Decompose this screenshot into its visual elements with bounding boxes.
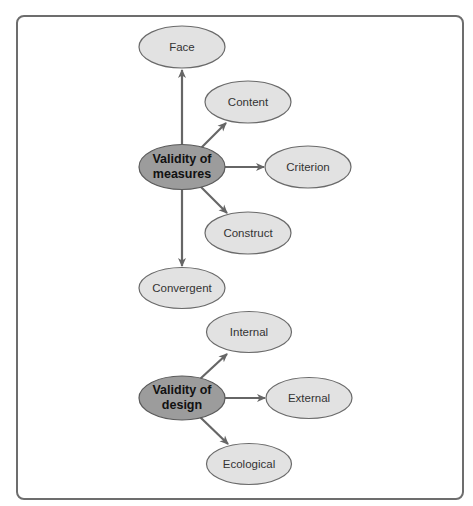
node-content-label: Content: [228, 96, 269, 108]
measures-label-line1: Validity of: [152, 152, 212, 166]
node-face[interactable]: Face: [139, 26, 225, 68]
node-validity-of-design[interactable]: Validity of design: [139, 376, 225, 420]
node-construct[interactable]: Construct: [205, 212, 291, 254]
measures-label-line2: measures: [153, 167, 211, 181]
validity-diagram: Face Content Criterion Construct Converg…: [0, 0, 473, 506]
node-construct-label: Construct: [223, 227, 273, 239]
arrow-to-ecological: [200, 417, 228, 444]
node-internal[interactable]: Internal: [207, 312, 292, 353]
node-ecological[interactable]: Ecological: [207, 444, 292, 485]
node-face-label: Face: [169, 41, 195, 53]
node-convergent-label: Convergent: [152, 282, 212, 294]
design-label-line1: Validity of: [152, 383, 212, 397]
node-external[interactable]: External: [266, 378, 352, 419]
node-ecological-label: Ecological: [223, 458, 275, 470]
arrow-to-content: [200, 123, 226, 149]
node-validity-of-measures[interactable]: Validity of measures: [139, 145, 225, 190]
arrow-to-construct: [200, 186, 227, 213]
node-convergent[interactable]: Convergent: [139, 268, 225, 309]
node-content[interactable]: Content: [205, 81, 291, 123]
node-external-label: External: [288, 392, 330, 404]
node-criterion[interactable]: Criterion: [265, 146, 351, 188]
arrow-to-internal: [200, 354, 227, 379]
design-label-line2: design: [162, 398, 202, 412]
node-criterion-label: Criterion: [286, 161, 329, 173]
node-internal-label: Internal: [230, 326, 268, 338]
